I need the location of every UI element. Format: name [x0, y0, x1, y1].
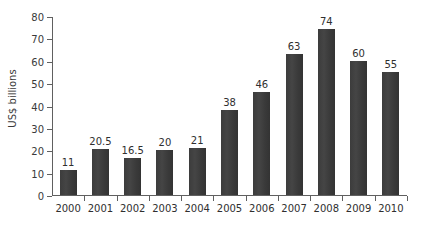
bar-value-label: 74 [320, 16, 333, 27]
bar-value-label: 63 [288, 41, 301, 52]
x-tick-label: 2005 [217, 203, 242, 214]
bar: 38 [221, 110, 238, 195]
x-tick-label: 2001 [88, 203, 113, 214]
y-axis-title-label: US$ billions [7, 69, 18, 127]
bar-value-label: 11 [62, 157, 75, 168]
x-tick-label: 2003 [152, 203, 177, 214]
x-tick-label: 2008 [314, 203, 339, 214]
bar: 20 [156, 150, 173, 195]
y-tick-mark [47, 39, 52, 40]
y-axis-title: US$ billions [0, 0, 24, 196]
y-tick-mark [47, 62, 52, 63]
bar: 74 [318, 29, 335, 195]
bar: 21 [189, 148, 206, 195]
x-tick-mark [310, 196, 311, 201]
x-tick-mark [84, 196, 85, 201]
bar: 60 [350, 61, 367, 195]
x-tick-mark [375, 196, 376, 201]
bar-chart-figure: US$ billions 01020304050607080 1120.516.… [0, 0, 427, 236]
y-tick-label: 50 [31, 79, 44, 90]
bar-value-label: 20.5 [89, 136, 111, 147]
y-tick-mark [47, 107, 52, 108]
bar-value-label: 38 [223, 97, 236, 108]
y-tick-mark [47, 17, 52, 18]
y-tick-mark [47, 196, 52, 197]
bar: 20.5 [92, 149, 109, 195]
x-tick-mark [407, 196, 408, 201]
x-tick-mark [181, 196, 182, 201]
y-tick-label: 20 [31, 146, 44, 157]
y-tick-label: 80 [31, 12, 44, 23]
bar-value-label: 21 [191, 135, 204, 146]
bar-value-label: 16.5 [122, 145, 144, 156]
x-tick-mark [149, 196, 150, 201]
bar-value-label: 60 [352, 48, 365, 59]
x-tick-mark [117, 196, 118, 201]
y-tick-mark [47, 129, 52, 130]
y-tick-label: 0 [38, 191, 44, 202]
x-tick-label: 2004 [184, 203, 209, 214]
x-tick-mark [213, 196, 214, 201]
bar: 55 [382, 72, 399, 195]
x-tick-mark [342, 196, 343, 201]
y-tick-label: 10 [31, 168, 44, 179]
y-tick-label: 40 [31, 101, 44, 112]
x-tick-label: 2010 [378, 203, 403, 214]
y-tick-label: 30 [31, 123, 44, 134]
bar-value-label: 46 [255, 79, 268, 90]
y-tick-mark [47, 151, 52, 152]
x-tick-label: 2006 [249, 203, 274, 214]
bar-value-label: 20 [159, 137, 172, 148]
bar: 63 [286, 54, 303, 195]
bar: 46 [253, 92, 270, 195]
bar: 11 [60, 170, 77, 195]
x-axis-line [52, 195, 407, 196]
x-tick-mark [246, 196, 247, 201]
x-tick-label: 2009 [346, 203, 371, 214]
bar: 16.5 [124, 158, 141, 195]
x-tick-label: 2007 [281, 203, 306, 214]
bar-value-label: 55 [384, 59, 397, 70]
y-tick-label: 60 [31, 56, 44, 67]
y-axis-line [52, 17, 53, 196]
y-tick-mark [47, 174, 52, 175]
x-tick-label: 2000 [55, 203, 80, 214]
x-tick-mark [278, 196, 279, 201]
plot-area: 01020304050607080 1120.516.5202138466374… [52, 17, 407, 196]
y-tick-label: 70 [31, 34, 44, 45]
y-tick-mark [47, 84, 52, 85]
x-tick-label: 2002 [120, 203, 145, 214]
